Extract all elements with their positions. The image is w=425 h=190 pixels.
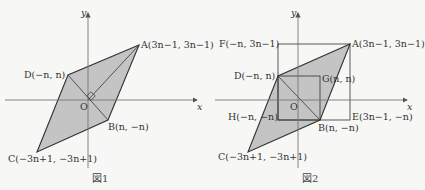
- point-c-label: C(−3n+1, −3n+1): [218, 151, 307, 162]
- point-h-label: H(−n, −n): [228, 111, 278, 122]
- point-a-label: A(3n−1, 3n−1): [351, 38, 425, 49]
- origin-label: O: [290, 101, 298, 112]
- point-c-label: C(−3n+1, −3n+1): [8, 153, 97, 164]
- point-b-label: B(n, −n): [318, 122, 359, 133]
- figure-1: y x O A(3n−1, 3n−1) D(−n, n) B(n, −n) C(…: [5, 7, 214, 184]
- y-axis-label: y: [290, 7, 297, 18]
- point-b-label: B(n, −n): [108, 121, 149, 132]
- x-axis-label: x: [197, 101, 203, 112]
- point-d-label: D(−n, n): [24, 69, 65, 80]
- point-a-label: A(3n−1, 3n−1): [140, 39, 214, 50]
- point-d-label: D(−n, n): [234, 70, 275, 81]
- figure-1-caption: 図1: [92, 173, 108, 184]
- point-f-label: F(−n, 3n−1): [219, 38, 279, 49]
- point-e-label: E(3n−1, −n): [352, 111, 413, 122]
- origin-label: O: [80, 101, 88, 112]
- y-axis-label: y: [80, 7, 87, 18]
- figure-2: y x O A(3n−1, 3n−1) F(−n, 3n−1) D(−n, n)…: [215, 7, 425, 184]
- point-g-label: G(n, n): [322, 73, 355, 84]
- diagram-canvas: y x O A(3n−1, 3n−1) D(−n, n) B(n, −n) C(…: [0, 0, 425, 190]
- figure-2-caption: 図2: [302, 173, 318, 184]
